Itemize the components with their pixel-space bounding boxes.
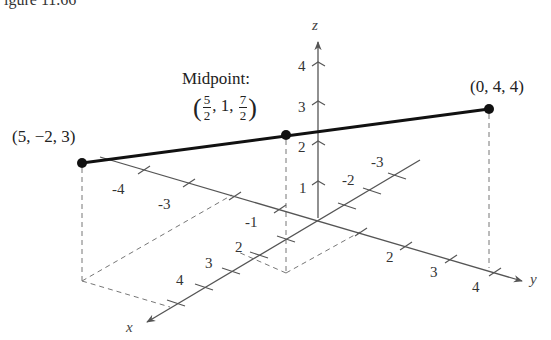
x-axis-label: x bbox=[126, 320, 133, 335]
y-tick-2: 2 bbox=[386, 250, 394, 265]
point-p2 bbox=[484, 104, 494, 114]
y-axis-label: y bbox=[530, 272, 537, 287]
y-axis bbox=[100, 157, 522, 281]
point-p1 bbox=[77, 158, 87, 168]
3d-coordinate-diagram bbox=[0, 0, 551, 340]
y-tick-4: 4 bbox=[472, 280, 480, 295]
point-p1-label: (5, −2, 3) bbox=[12, 128, 75, 145]
x-tick-2: 2 bbox=[235, 240, 243, 255]
axes bbox=[100, 42, 522, 322]
z-tick-1: 1 bbox=[299, 181, 307, 196]
z-axis-label: z bbox=[312, 18, 318, 33]
y-tick-neg3: -3 bbox=[371, 155, 384, 170]
point-midpoint bbox=[281, 130, 291, 140]
midpoint-x-fraction: 52 bbox=[203, 93, 212, 122]
y-tick-3: 3 bbox=[430, 265, 438, 280]
x-tick-4: 4 bbox=[176, 273, 184, 288]
z-tick-4: 4 bbox=[298, 59, 306, 74]
midpoint-coords: (52, 1, 72) bbox=[193, 93, 257, 122]
x-tick-neg3: -3 bbox=[158, 197, 171, 212]
z-tick-3: 3 bbox=[298, 100, 306, 115]
projection-lines bbox=[82, 114, 489, 307]
midpoint-z-fraction: 72 bbox=[239, 93, 248, 122]
x-tick-neg1: -1 bbox=[245, 215, 258, 230]
y-tick-neg2: -2 bbox=[342, 173, 355, 188]
midpoint-title: Midpoint: bbox=[182, 70, 250, 87]
x-tick-neg4: -4 bbox=[112, 182, 125, 197]
x-tick-3: 3 bbox=[205, 256, 213, 271]
z-tick-2: 2 bbox=[298, 140, 306, 155]
point-p2-label: (0, 4, 4) bbox=[470, 78, 524, 95]
